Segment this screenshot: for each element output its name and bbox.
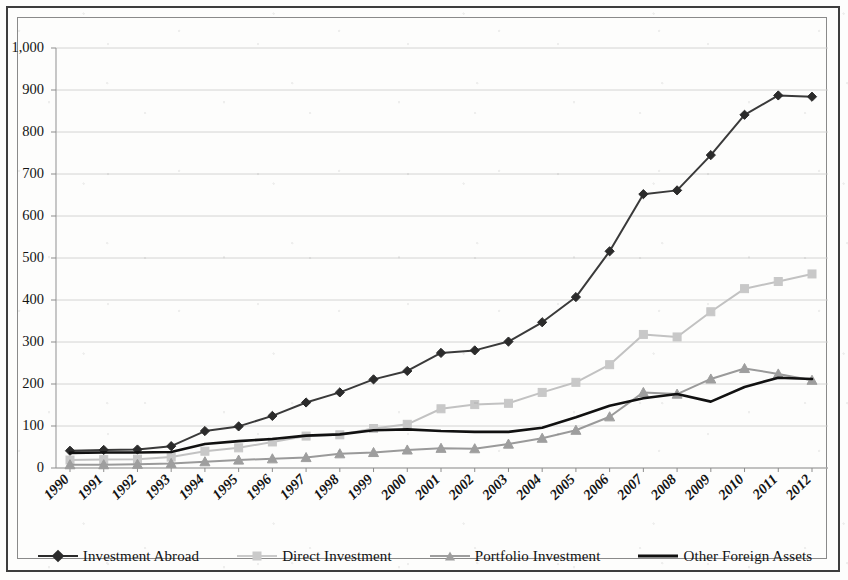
data-point-marker bbox=[808, 270, 816, 278]
data-point-marker bbox=[335, 388, 344, 397]
data-point-marker bbox=[403, 420, 411, 428]
legend-swatch-diamond-icon bbox=[38, 549, 78, 563]
y-tick-label: 0 bbox=[37, 459, 44, 475]
legend-line bbox=[638, 555, 678, 558]
x-tick-label: 1991 bbox=[74, 471, 106, 503]
y-tick-label: 200 bbox=[22, 375, 44, 391]
legend-item[interactable]: Direct Investment bbox=[237, 548, 392, 565]
data-point-marker bbox=[774, 91, 783, 100]
data-point-marker bbox=[403, 366, 412, 375]
x-axis-ticks: 1990199119921993199419951996199719981999… bbox=[40, 468, 814, 503]
legend-item[interactable]: Investment Abroad bbox=[38, 548, 199, 565]
data-point-marker bbox=[741, 285, 749, 293]
data-point-marker bbox=[538, 388, 546, 396]
series-direct-investment bbox=[66, 270, 816, 464]
x-tick-label: 1995 bbox=[209, 471, 241, 503]
x-tick-label: 2004 bbox=[512, 471, 545, 504]
plot-area: 01002003004005006007008009001,000 199019… bbox=[0, 0, 848, 580]
data-point-marker bbox=[369, 375, 378, 384]
data-point-marker bbox=[301, 398, 310, 407]
legend-label: Investment Abroad bbox=[83, 548, 199, 565]
data-point-marker bbox=[167, 442, 176, 451]
data-point-marker bbox=[639, 330, 647, 338]
series-portfolio-investment bbox=[65, 363, 817, 468]
x-tick-label: 2003 bbox=[478, 471, 511, 504]
data-point-marker bbox=[606, 361, 614, 369]
data-series-layer bbox=[65, 91, 817, 469]
data-point-marker bbox=[470, 346, 479, 355]
x-tick-label: 1996 bbox=[243, 470, 275, 502]
y-tick-label: 300 bbox=[22, 333, 44, 349]
legend-swatch-square-icon bbox=[237, 549, 277, 563]
legend-item[interactable]: Portfolio Investment bbox=[430, 548, 601, 565]
x-tick-label: 2012 bbox=[782, 471, 815, 504]
line-chart-svg: 01002003004005006007008009001,000 199019… bbox=[0, 0, 848, 580]
legend-marker-triangle-icon bbox=[445, 552, 455, 561]
data-point-marker bbox=[707, 308, 715, 316]
x-tick-label: 2010 bbox=[714, 471, 747, 504]
x-tick-label: 2011 bbox=[748, 471, 780, 503]
x-tick-label: 2002 bbox=[444, 471, 477, 504]
data-point-marker bbox=[437, 405, 445, 413]
chart-figure: 01002003004005006007008009001,000 199019… bbox=[0, 0, 848, 580]
y-tick-label: 500 bbox=[22, 249, 44, 265]
data-point-marker bbox=[740, 363, 750, 372]
legend-label: Other Foreign Assets bbox=[683, 548, 812, 565]
data-point-marker bbox=[235, 444, 243, 452]
data-point-marker bbox=[504, 399, 512, 407]
x-tick-label: 2007 bbox=[613, 470, 646, 503]
legend-marker-square-icon bbox=[253, 552, 262, 561]
x-tick-label: 2005 bbox=[546, 471, 579, 504]
legend-swatch-none-icon bbox=[638, 549, 678, 563]
data-point-marker bbox=[504, 337, 513, 346]
x-tick-label: 2009 bbox=[680, 471, 713, 504]
legend-label: Direct Investment bbox=[282, 548, 392, 565]
data-point-marker bbox=[471, 401, 479, 409]
x-tick-label: 2000 bbox=[377, 471, 410, 504]
data-point-marker bbox=[234, 422, 243, 431]
data-point-marker bbox=[807, 92, 816, 101]
x-tick-label: 2006 bbox=[579, 470, 612, 503]
y-tick-label: 600 bbox=[22, 207, 44, 223]
x-tick-label: 1997 bbox=[276, 470, 308, 502]
x-tick-label: 1994 bbox=[175, 471, 207, 503]
data-point-marker bbox=[436, 348, 445, 357]
series-line bbox=[70, 95, 812, 450]
x-tick-label: 1993 bbox=[141, 471, 173, 503]
chart-legend: Investment AbroadDirect InvestmentPortfo… bbox=[30, 543, 820, 569]
y-tick-label: 400 bbox=[22, 291, 44, 307]
data-point-marker bbox=[268, 411, 277, 420]
x-tick-label: 2001 bbox=[411, 471, 444, 504]
data-point-marker bbox=[200, 426, 209, 435]
data-point-marker bbox=[774, 278, 782, 286]
x-tick-label: 1992 bbox=[108, 471, 140, 503]
legend-marker-diamond-icon bbox=[51, 550, 64, 563]
x-tick-label: 1999 bbox=[344, 471, 376, 503]
data-point-marker bbox=[201, 447, 209, 455]
y-tick-label: 100 bbox=[22, 417, 44, 433]
y-tick-label: 700 bbox=[22, 165, 44, 181]
legend-label: Portfolio Investment bbox=[475, 548, 601, 565]
data-point-marker bbox=[673, 333, 681, 341]
y-tick-label: 800 bbox=[22, 123, 44, 139]
data-point-marker bbox=[639, 190, 648, 199]
data-point-marker bbox=[572, 378, 580, 386]
y-tick-label: 900 bbox=[22, 81, 44, 97]
legend-swatch-triangle-icon bbox=[430, 549, 470, 563]
y-axis-ticks: 01002003004005006007008009001,000 bbox=[11, 39, 56, 475]
x-tick-label: 2008 bbox=[647, 470, 680, 503]
x-tick-label: 1990 bbox=[40, 471, 72, 503]
legend-item[interactable]: Other Foreign Assets bbox=[638, 548, 812, 565]
y-tick-label: 1,000 bbox=[11, 39, 44, 55]
x-tick-label: 1998 bbox=[310, 470, 342, 502]
